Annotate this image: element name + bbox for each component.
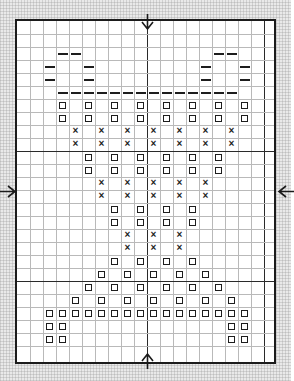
- stitch-open-square: [111, 284, 119, 292]
- grid-line-horizontal: [17, 60, 274, 61]
- stitch-dash: [214, 92, 224, 94]
- stitch-open-square: [202, 297, 210, 305]
- grid-line-horizontal: [17, 320, 274, 321]
- stitch-open-square: [111, 154, 119, 162]
- stitch-open-square: [85, 167, 93, 175]
- center-arrow-top: [140, 13, 155, 31]
- grid-line-horizontal: [17, 99, 274, 100]
- stitch-open-square: [137, 219, 145, 227]
- stitch-dash: [214, 53, 224, 55]
- stitch-open-square: [189, 310, 197, 318]
- stitch-open-square: [176, 271, 184, 279]
- stitch-open-square: [85, 154, 93, 162]
- stitch-open-square: [189, 258, 197, 266]
- stitch-open-square: [163, 258, 171, 266]
- stitch-open-square: [202, 271, 210, 279]
- stitch-open-square: [98, 271, 106, 279]
- stitch-cross: ×: [69, 139, 82, 152]
- grid-line-horizontal: [17, 307, 274, 308]
- stitch-open-square: [137, 115, 145, 123]
- stitch-open-square: [163, 310, 171, 318]
- stitch-cross: ×: [121, 139, 134, 152]
- grid-line-horizontal: [17, 47, 274, 48]
- stitch-dash: [97, 92, 107, 94]
- stitch-open-square: [72, 310, 80, 318]
- stitch-open-square: [189, 154, 197, 162]
- grid-line-horizontal: [17, 333, 274, 334]
- grid-line-horizontal: [17, 177, 274, 178]
- stitch-cross: ×: [199, 139, 212, 152]
- stitch-open-square: [111, 102, 119, 110]
- stitch-open-square: [215, 102, 223, 110]
- stitch-cross: ×: [147, 139, 160, 152]
- grid-line-horizontal: [17, 242, 274, 243]
- stitch-open-square: [111, 310, 119, 318]
- grid-line-horizontal: [17, 268, 274, 269]
- grid-line-horizontal: [17, 216, 274, 217]
- stitch-open-square: [137, 167, 145, 175]
- grid-line-horizontal: [17, 229, 274, 230]
- stitch-open-square: [59, 115, 67, 123]
- stitch-open-square: [189, 219, 197, 227]
- center-arrow-left: [0, 184, 17, 199]
- stitch-cross: ×: [95, 191, 108, 204]
- grid-line-horizontal: [17, 86, 274, 87]
- stitch-open-square: [150, 297, 158, 305]
- stitch-open-square: [85, 284, 93, 292]
- stitch-open-square: [137, 284, 145, 292]
- stitch-dash: [71, 92, 81, 94]
- stitch-dash: [84, 92, 94, 94]
- stitch-dash: [45, 66, 55, 68]
- stitch-cross: ×: [173, 191, 186, 204]
- stitch-open-square: [215, 310, 223, 318]
- stitch-open-square: [189, 102, 197, 110]
- stitch-open-square: [59, 323, 67, 331]
- stitch-open-square: [163, 102, 171, 110]
- stitch-open-square: [111, 258, 119, 266]
- stitch-dash: [201, 79, 211, 81]
- stitch-open-square: [137, 102, 145, 110]
- stitch-open-square: [72, 297, 80, 305]
- stitch-open-square: [189, 115, 197, 123]
- stitch-open-square: [215, 154, 223, 162]
- stitch-open-square: [228, 323, 236, 331]
- stitch-open-square: [215, 167, 223, 175]
- stitch-dash: [188, 92, 198, 94]
- stitch-open-square: [85, 115, 93, 123]
- grid-line-horizontal: [17, 346, 274, 347]
- stitch-cross: ×: [199, 191, 212, 204]
- stitch-dash: [227, 53, 237, 55]
- stitch-open-square: [111, 219, 119, 227]
- stitch-dash: [45, 79, 55, 81]
- stitch-dash: [58, 53, 68, 55]
- stitch-open-square: [215, 115, 223, 123]
- stitch-open-square: [85, 102, 93, 110]
- stitch-dash: [58, 92, 68, 94]
- stitch-dash: [110, 92, 120, 94]
- stitch-dash: [240, 66, 250, 68]
- stitch-open-square: [111, 206, 119, 214]
- stitch-open-square: [59, 102, 67, 110]
- grid-line-horizontal: [17, 164, 274, 165]
- stitch-open-square: [137, 258, 145, 266]
- stitch-open-square: [163, 154, 171, 162]
- pattern-chart[interactable]: ××××××××××××××××××××××××××××××: [15, 19, 276, 364]
- grid-line-horizontal: [17, 190, 274, 191]
- stitch-open-square: [124, 271, 132, 279]
- stitch-dash: [71, 53, 81, 55]
- stitch-open-square: [189, 167, 197, 175]
- stitch-open-square: [163, 219, 171, 227]
- stitch-open-square: [176, 310, 184, 318]
- stitch-dash: [175, 92, 185, 94]
- stitch-dash: [84, 66, 94, 68]
- stitch-open-square: [124, 297, 132, 305]
- stitch-open-square: [241, 310, 249, 318]
- stitch-dash: [123, 92, 133, 94]
- stitch-open-square: [176, 297, 184, 305]
- grid-line-horizontal: [17, 255, 274, 256]
- stitch-open-square: [98, 310, 106, 318]
- stitch-open-square: [228, 336, 236, 344]
- stitch-open-square: [241, 115, 249, 123]
- stitch-dash: [227, 92, 237, 94]
- stitch-open-square: [137, 206, 145, 214]
